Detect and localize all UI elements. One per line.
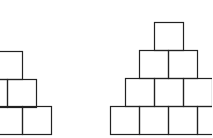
block xyxy=(111,107,140,135)
block xyxy=(155,23,184,51)
block xyxy=(155,79,184,107)
block xyxy=(169,51,198,79)
block xyxy=(0,52,23,80)
block xyxy=(140,107,169,135)
block xyxy=(23,107,52,135)
left-pyramid xyxy=(0,52,52,135)
pyramids-diagram xyxy=(0,0,212,138)
block xyxy=(140,51,169,79)
right-pyramid xyxy=(111,23,213,135)
block xyxy=(198,107,213,135)
block xyxy=(8,80,37,108)
block xyxy=(184,79,213,107)
block xyxy=(0,80,8,108)
block xyxy=(126,79,155,107)
block xyxy=(0,107,23,135)
block xyxy=(169,107,198,135)
